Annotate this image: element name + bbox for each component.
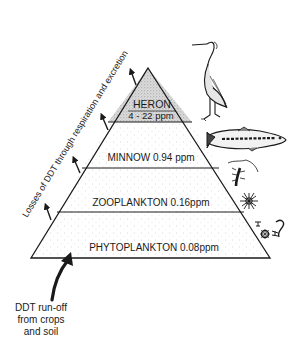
pyramid [31,68,270,258]
heron-concentration: 4 - 22 ppm [128,110,173,121]
runoff-line-1: DDT run-off [6,302,76,314]
loss-arrow-phytoplankton [46,206,51,220]
heron-label: HERON [133,98,171,110]
zooplankton-label: ZOOPLANKTON 0.16ppm [92,197,209,208]
runoff-arrow [52,260,68,300]
loss-arrow-heron [131,71,136,85]
heron-icon [192,42,227,121]
loss-arrow-zooplankton [74,159,80,173]
runoff-line-3: and soil [6,326,76,338]
phytoplankton-label: PHYTOPLANKTON 0.08ppm [89,242,219,253]
minnow-label: MINNOW 0.94 ppm [107,152,194,163]
phytoplankton-icon [255,220,284,239]
runoff-caption: DDT run-off from crops and soil [6,302,76,338]
minnow-fish-icon [207,127,286,151]
runoff-line-2: from crops [6,314,76,326]
